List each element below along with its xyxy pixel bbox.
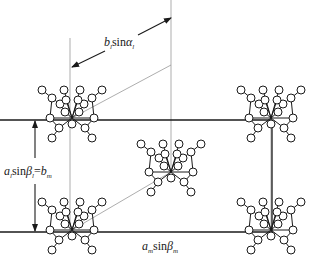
unit-cell-diagram [0, 0, 316, 264]
molecule-top-left [38, 86, 106, 142]
molecule-bottom-left [38, 198, 106, 254]
reference-lines [70, 0, 271, 232]
label-a-sin-beta-equals-b: alsinβl=bm [4, 165, 52, 180]
molecules [38, 86, 305, 254]
label-b-sin-alpha: blsinαl [104, 36, 134, 51]
upper-diagonal-line [72, 65, 171, 118]
top-arrow-right [138, 18, 171, 35]
top-arrow-left [72, 51, 105, 67]
label-a-sin-beta-m: amsinβm [142, 240, 178, 255]
